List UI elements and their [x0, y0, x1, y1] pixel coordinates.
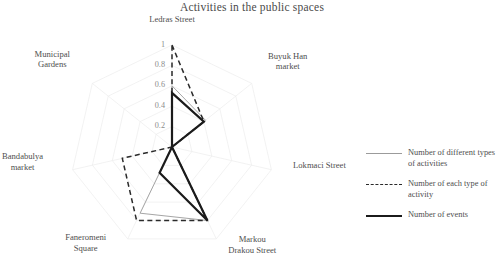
legend-item: Number of each type of activity	[366, 179, 504, 201]
axis-label-0: Ledras Street	[127, 14, 217, 25]
axis-label-5: Bandabulyamarket	[0, 151, 63, 172]
legend-label: Number of each type of activity	[408, 179, 504, 200]
legend-label: Number of events	[408, 210, 504, 221]
radial-tick-label: 0.6	[132, 80, 165, 89]
axis-label-line: Municipal	[12, 49, 92, 60]
legend-label: Number of different types of activities	[408, 148, 504, 169]
radar-chart-figure: Activities in the public spaces Ledras S…	[0, 0, 504, 262]
axis-label-line: market	[0, 162, 63, 173]
chart-legend: Number of different types of activities …	[366, 148, 504, 241]
radial-tick-label: 0.2	[132, 121, 165, 130]
axis-label-line: Drakou Street	[210, 245, 294, 256]
axis-label-6: MunicipalGardens	[12, 49, 92, 70]
dashed-line-swatch	[366, 184, 402, 189]
legend-item: Number of different types of activities	[366, 148, 504, 170]
axis-label-line: market	[248, 61, 328, 72]
axis-label-line: Buyuk Han	[248, 51, 328, 62]
radial-tick-label: 1	[132, 40, 165, 49]
axis-label-1: Buyuk Hanmarket	[248, 51, 328, 72]
axis-label-2: Lokmaci Street	[277, 160, 361, 171]
axis-label-4: FaneromeniSquare	[47, 232, 125, 253]
axis-label-line: Gardens	[12, 59, 92, 70]
axis-label-line: Lokmaci Street	[277, 160, 361, 171]
thin-line-swatch	[366, 153, 402, 158]
axis-label-3: MarkouDrakou Street	[210, 234, 294, 255]
legend-item: Number of events	[366, 210, 504, 232]
axis-label-line: Square	[47, 243, 125, 254]
axis-label-line: Faneromeni	[47, 232, 125, 243]
axis-label-line: Markou	[210, 234, 294, 245]
radial-tick-label: 0.8	[132, 60, 165, 69]
axis-label-line: Bandabulya	[0, 151, 63, 162]
radial-tick-label: 0.4	[132, 101, 165, 110]
axis-label-line: Ledras Street	[127, 14, 217, 25]
thick-line-swatch	[366, 215, 402, 221]
